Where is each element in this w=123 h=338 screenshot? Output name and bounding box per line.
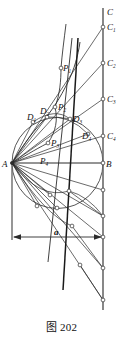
geometric-construction-diagram: A B C C1 C2 C3 C4 P1 P2 P3 P4 D1 D2 D3 D… <box>0 0 123 338</box>
figure-container: A B C C1 C2 C3 C4 P1 P2 P3 P4 D1 D2 D3 D… <box>0 0 123 338</box>
marker-B <box>101 161 105 165</box>
label-C3: C3 <box>107 94 116 105</box>
figure-caption: 图 202 <box>0 318 123 334</box>
marker-R5 <box>101 298 105 302</box>
label-D1: D1 <box>26 112 37 123</box>
marker-L4 <box>55 206 59 210</box>
label-P4: P4 <box>39 156 49 167</box>
marker-D3 <box>68 117 72 121</box>
marker-R4 <box>101 266 105 270</box>
label-P3: P3 <box>50 138 60 149</box>
marker-R3 <box>101 235 105 239</box>
label-C1: C1 <box>107 22 116 33</box>
label-dimension-a: a <box>54 227 59 237</box>
marker-C2 <box>101 61 105 65</box>
marker-C3 <box>101 97 105 101</box>
dimension-arrow-left <box>13 234 21 240</box>
connector-L5-R4 <box>72 226 103 268</box>
marker-L1 <box>48 193 52 197</box>
label-D2: D2 <box>39 106 50 117</box>
label-C2: C2 <box>107 58 116 69</box>
label-B: B <box>106 159 112 169</box>
marker-P2 <box>53 105 57 109</box>
label-A: A <box>1 159 8 169</box>
label-P1: P1 <box>62 63 72 74</box>
label-D3: D3 <box>72 114 83 125</box>
connector-L6-R5 <box>80 265 103 300</box>
marker-R2 <box>101 214 105 218</box>
marker-R1 <box>101 188 105 192</box>
marker-L2 <box>67 189 71 193</box>
ray-A-R4 <box>12 163 103 268</box>
label-D4: D4 <box>81 131 92 142</box>
marker-L6 <box>78 263 82 267</box>
marker-L3 <box>35 204 39 208</box>
marker-C1 <box>101 25 105 29</box>
connector-L2-R2 <box>69 191 103 216</box>
marker-L5 <box>70 224 74 228</box>
marker-P3 <box>46 141 50 145</box>
label-C: C <box>107 7 114 17</box>
marker-A <box>10 161 13 164</box>
marker-C4 <box>101 134 105 138</box>
label-C4: C4 <box>107 131 116 142</box>
arc-D-family-3 <box>28 129 90 140</box>
